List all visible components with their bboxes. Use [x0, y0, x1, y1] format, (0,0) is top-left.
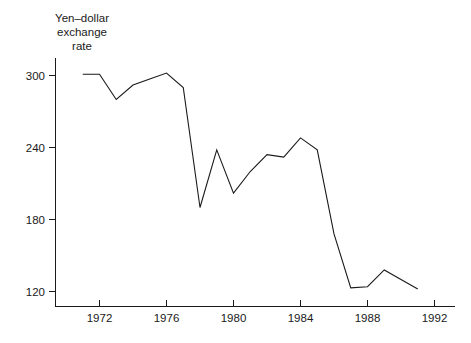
y-tick-label-120: 120 [26, 286, 45, 298]
y-tick-label-240: 240 [26, 142, 45, 154]
chart-title-line-1: Yen–dollar [55, 12, 109, 24]
chart-title-line-2: exchange [57, 26, 107, 38]
chart-title: Yen–dollar exchange rate [55, 12, 109, 52]
chart-title-line-3: rate [72, 40, 92, 52]
line-chart: Yen–dollar exchange rate 300 240 180 120 [0, 0, 471, 343]
chart-canvas: Yen–dollar exchange rate 300 240 180 120 [0, 0, 471, 343]
x-tick-label-1984: 1984 [288, 312, 314, 324]
x-tick-label-1988: 1988 [355, 312, 381, 324]
y-tick-label-180: 180 [26, 214, 45, 226]
x-tick-label-1992: 1992 [422, 312, 448, 324]
x-axis: 1972 1976 1980 1984 1988 1992 [55, 300, 455, 324]
x-tick-label-1972: 1972 [87, 312, 113, 324]
data-series-line [83, 73, 418, 289]
x-tick-label-1980: 1980 [221, 312, 247, 324]
y-tick-label-300: 300 [26, 70, 45, 82]
y-axis: 300 240 180 120 [26, 58, 56, 306]
x-tick-label-1976: 1976 [154, 312, 180, 324]
